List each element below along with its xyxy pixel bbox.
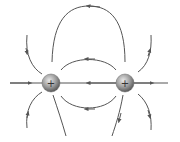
field-line-left-bottom: [27, 92, 42, 128]
field-line-right-down: [112, 95, 123, 136]
field-line-left-top: [27, 35, 42, 74]
charge-sign-right: +: [121, 78, 129, 89]
charge-sign-left: +: [47, 78, 55, 89]
field-line-top-outer: [52, 6, 125, 62]
field-line-top-inner: [61, 60, 116, 71]
field-line-diagram: + +: [0, 0, 180, 142]
charge-right: +: [116, 74, 134, 92]
field-line-right-bottom: [138, 94, 151, 130]
charge-left: +: [42, 74, 60, 92]
field-line-left-down: [53, 95, 66, 136]
field-line-bottom-inner: [61, 96, 116, 108]
